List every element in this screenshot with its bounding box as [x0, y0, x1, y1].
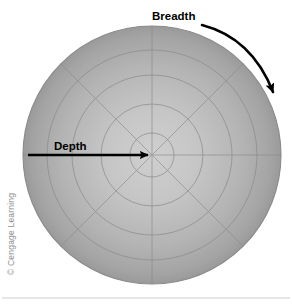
credit-text: © Cengage Learning	[6, 193, 16, 275]
breadth-label: Breadth	[152, 10, 195, 22]
polar-grid-diagram: Depth Breadth © Cengage Learning	[0, 0, 292, 305]
figure-canvas: Depth Breadth © Cengage Learning	[0, 0, 292, 305]
depth-label: Depth	[54, 140, 87, 152]
